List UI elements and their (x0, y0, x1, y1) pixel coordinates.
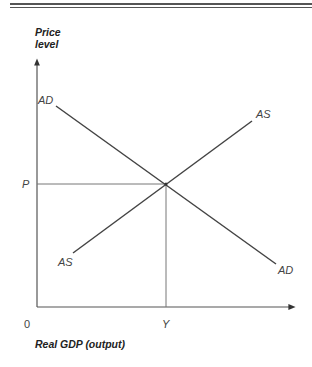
x-axis-title: Real GDP (output) (35, 338, 125, 350)
as-curve (73, 121, 252, 253)
price-label: P (22, 178, 29, 190)
as-upper-label: AS (256, 108, 271, 120)
ad-lower-label: AD (278, 264, 293, 276)
equilibrium-point (165, 183, 168, 186)
origin-label: 0 (24, 318, 30, 330)
output-label: Y (162, 318, 169, 330)
ad-as-diagram (0, 0, 312, 367)
ad-upper-label: AD (38, 94, 53, 106)
as-lower-label: AS (58, 256, 73, 268)
